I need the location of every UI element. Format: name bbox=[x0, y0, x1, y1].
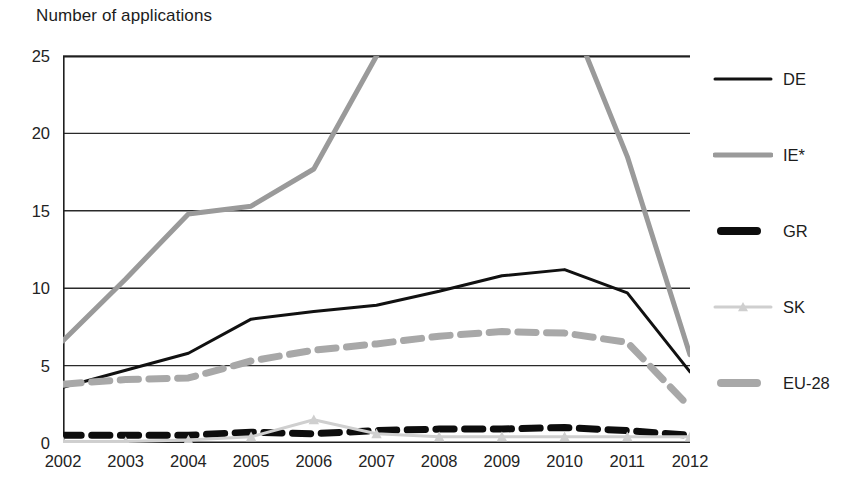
y-tick-label: 15 bbox=[14, 201, 50, 220]
series-line-de bbox=[63, 270, 690, 388]
y-tick-label: 5 bbox=[14, 356, 50, 375]
x-tick-label: 2008 bbox=[421, 452, 458, 471]
x-tick-label: 2003 bbox=[107, 452, 144, 471]
x-tick-label: 2007 bbox=[358, 452, 395, 471]
legend-item-label: GR bbox=[783, 222, 808, 241]
x-tick-label: 2006 bbox=[295, 452, 332, 471]
x-tick-label: 2002 bbox=[45, 452, 82, 471]
legend-item-ie[interactable]: IE* bbox=[712, 138, 862, 172]
gridlines bbox=[63, 56, 690, 366]
legend-swatch-icon bbox=[712, 68, 774, 90]
line-chart-canvas bbox=[63, 56, 690, 443]
series-group bbox=[58, 0, 695, 446]
legend-item-label: SK bbox=[783, 298, 805, 317]
x-tick-label: 2011 bbox=[610, 452, 645, 471]
legend-item-label: EU-28 bbox=[783, 374, 830, 393]
legend-item-de[interactable]: DE bbox=[712, 62, 862, 96]
chart-legend: DEIE*GRSKEU-28 bbox=[712, 62, 862, 442]
series-line-ie bbox=[63, 0, 690, 355]
legend-item-label: DE bbox=[783, 70, 806, 89]
y-tick-label: 20 bbox=[14, 124, 50, 143]
y-tick-label: 0 bbox=[14, 434, 50, 453]
legend-item-sk[interactable]: SK bbox=[712, 290, 862, 324]
x-tick-label: 2009 bbox=[484, 452, 521, 471]
legend-swatch-icon bbox=[712, 296, 774, 318]
y-axis-title: Number of applications bbox=[36, 6, 212, 26]
y-tick-label: 10 bbox=[14, 279, 50, 298]
legend-swatch-icon bbox=[712, 220, 774, 242]
x-tick-label: 2005 bbox=[233, 452, 270, 471]
x-tick-label: 2012 bbox=[672, 452, 709, 471]
legend-swatch-icon bbox=[712, 372, 774, 394]
x-tick-label: 2010 bbox=[546, 452, 583, 471]
legend-swatch-icon bbox=[712, 144, 774, 166]
series-line-eu-28 bbox=[63, 332, 690, 408]
legend-item-eu28[interactable]: EU-28 bbox=[712, 366, 862, 400]
x-tick-label: 2004 bbox=[170, 452, 207, 471]
legend-item-gr[interactable]: GR bbox=[712, 214, 862, 248]
y-tick-label: 25 bbox=[14, 47, 50, 66]
plot-area bbox=[63, 56, 690, 443]
chart-root: Number of applications 0510152025 200220… bbox=[0, 0, 867, 502]
legend-item-label: IE* bbox=[783, 146, 805, 165]
